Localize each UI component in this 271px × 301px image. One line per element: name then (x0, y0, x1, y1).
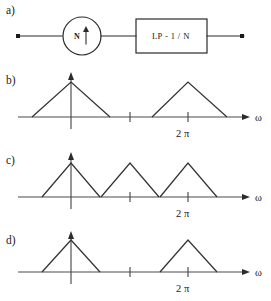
panel-d: d) ω 2 π (6, 231, 262, 294)
panel-c: c) ω 2 π (6, 152, 262, 219)
panel-d-vertical-arrowhead (68, 231, 74, 239)
panel-d-tick-label-2pi: 2 π (176, 283, 190, 294)
input-node-dot (16, 34, 20, 38)
panel-c-vertical-arrowhead (68, 152, 74, 160)
upsampler-label: N (74, 32, 80, 41)
panel-a-label: a) (6, 4, 15, 17)
panel-b-vertical-arrowhead (68, 72, 74, 80)
figure-root: a) N LP - 1 / N b) (0, 0, 271, 301)
panel-c-label: c) (6, 154, 15, 167)
panel-d-label: d) (6, 234, 16, 247)
panel-b-tick-label-2pi: 2 π (176, 128, 190, 139)
panel-a: a) N LP - 1 / N (6, 4, 244, 55)
panel-b: b) ω 2 π (6, 72, 262, 139)
panel-c-tick-label-2pi: 2 π (176, 208, 190, 219)
panel-b-label: b) (6, 74, 16, 87)
panel-c-triangle-image-pi (101, 163, 159, 197)
panel-d-axis-arrowhead (242, 269, 250, 275)
panel-d-axis-label: ω (255, 267, 262, 278)
lowpass-filter-label: LP - 1 / N (152, 31, 190, 41)
panel-c-triangle-image-2pi (160, 163, 217, 197)
panel-c-axis-arrowhead (242, 194, 250, 200)
panel-b-axis-label: ω (255, 112, 262, 123)
upsampler-circle (63, 17, 101, 55)
panel-b-triangle-image-2pi (152, 82, 227, 117)
output-node-dot (240, 34, 244, 38)
panel-c-axis-label: ω (255, 192, 262, 203)
panel-b-axis-arrowhead (242, 114, 250, 120)
signal-processing-figure: a) N LP - 1 / N b) (0, 0, 271, 301)
